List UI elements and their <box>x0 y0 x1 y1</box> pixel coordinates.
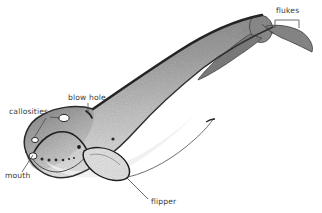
belly-contour-line <box>128 118 214 177</box>
callosity-bonnet <box>59 114 69 121</box>
label-callosities: callosities <box>9 107 48 116</box>
leader-flipper <box>127 178 148 199</box>
label-mouth: mouth <box>5 171 30 180</box>
body-spot <box>111 137 114 140</box>
fluke-lobe-right <box>266 25 313 52</box>
ventral-rear-mark <box>206 119 215 122</box>
label-flukes: flukes <box>276 6 299 15</box>
callosity-lip <box>32 137 39 142</box>
label-blow-hole: blow hole <box>68 93 106 102</box>
whale-anatomy-figure: flukes blow hole callosities mouth flipp… <box>0 0 322 213</box>
callosity-chin <box>29 153 37 159</box>
whale-illustration-svg: flukes blow hole callosities mouth flipp… <box>0 0 322 213</box>
label-flipper: flipper <box>151 197 177 206</box>
whale-eye <box>77 145 81 149</box>
